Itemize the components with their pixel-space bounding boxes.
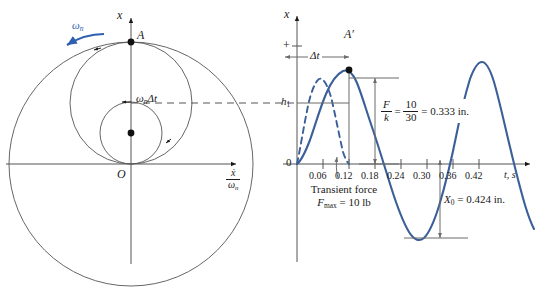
fk-numerator: F <box>381 99 392 112</box>
figure-svg <box>0 0 558 291</box>
point-a-label: A <box>137 29 144 41</box>
point-a-marker <box>128 39 135 46</box>
tick-label-2: 0.18 <box>361 171 379 181</box>
x0-value: = 0.424 in. <box>454 193 505 205</box>
xdot-over-omega-fraction: ẋ ωn <box>226 168 240 190</box>
plus-sign-label: + <box>283 39 290 51</box>
delta-t-label: Δt <box>308 50 322 61</box>
time-zero-label: 0 <box>286 157 292 168</box>
omega-n-symbol: ω <box>72 19 80 31</box>
outer-arc-arrow <box>94 48 101 50</box>
omega-n-label: ωn <box>72 20 84 32</box>
omega-n-subscript: n <box>80 24 84 33</box>
omega-delta-t-label: ωnΔt <box>136 93 157 105</box>
fk-value-numerator: 10 <box>403 99 418 112</box>
response-curve <box>297 62 534 240</box>
fk-annotation: F k = 10 30 = 0.333 in. <box>380 99 470 123</box>
tick-label-1: 0.12 <box>335 171 353 181</box>
point-a-prime-marker <box>346 67 353 74</box>
transient-force-caption: Transient force Fmax = 10 lb <box>292 184 396 209</box>
x0-annotation: X0 = 0.424 in. <box>444 194 505 206</box>
tick-label-5: 0.36 <box>439 171 457 181</box>
point-a-prime-label: A′ <box>344 28 354 40</box>
figure-container: x A O ωn ωnΔt ẋ ωn x + 0 h1 A′ Δt t, s … <box>0 0 558 291</box>
fk-fraction: F k <box>381 99 392 123</box>
omega-rotation-arrow <box>67 34 104 45</box>
phase-y-axis-label: x <box>117 9 122 21</box>
fk-result: = 0.333 in. <box>421 106 469 117</box>
omega-delta-t-rest: Δt <box>148 92 158 104</box>
phase-plane-diagram <box>6 18 297 286</box>
fk-value-denominator: 30 <box>403 112 418 124</box>
time-x-axis-label: t, s <box>504 170 516 180</box>
middle-arc-arrow <box>166 139 171 143</box>
fk-equals: = <box>394 106 400 117</box>
tick-label-3: 0.24 <box>387 171 405 181</box>
tick-label-6: 0.42 <box>465 171 483 181</box>
transient-force-caption-line2: Fmax = 10 lb <box>292 197 396 209</box>
fk-value-fraction: 10 30 <box>403 99 418 123</box>
time-y-axis-label: x <box>284 8 289 20</box>
spiral-center-marker <box>128 130 135 137</box>
phase-origin-label: O <box>117 168 126 180</box>
omega-delta-t-symbol: ω <box>136 92 144 104</box>
h1-label: h1 <box>281 96 290 108</box>
omega-denominator: ωn <box>226 180 240 191</box>
tick-label-0: 0.06 <box>309 171 327 181</box>
tick-label-4: 0.30 <box>413 171 431 181</box>
fk-denominator: k <box>381 112 392 124</box>
transient-force-caption-line1: Transient force <box>292 184 396 195</box>
phase-x-axis-label: ẋ ωn <box>226 168 240 190</box>
x0-symbol: X <box>444 193 451 205</box>
